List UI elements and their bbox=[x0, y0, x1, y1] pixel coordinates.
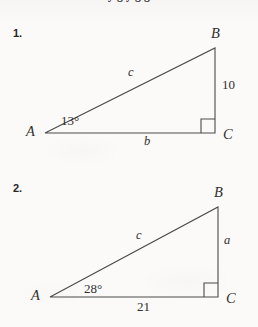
triangle-1-hypotenuse-label: c bbox=[128, 65, 134, 80]
triangle-1-vertex-label-A: A bbox=[26, 123, 35, 140]
triangle-1-base-label: b bbox=[144, 134, 150, 149]
triangle-2-vertex-label-A: A bbox=[31, 287, 40, 304]
problem-2-number: 2. bbox=[13, 182, 22, 194]
triangle-1-vertex-label-C: C bbox=[223, 126, 233, 143]
triangle-2-angle-label: 28° bbox=[84, 281, 102, 297]
triangle-2-hypotenuse-label: c bbox=[136, 228, 142, 243]
triangle-2-outline bbox=[50, 207, 218, 297]
triangle-1-angle-label: 13° bbox=[61, 113, 79, 129]
triangle-2-right-angle-marker bbox=[204, 283, 218, 297]
triangle-2-vertex-label-B: B bbox=[214, 184, 223, 201]
triangle-1-vertical-side-label: 10 bbox=[222, 77, 235, 93]
triangle-1-vertex-label-B: B bbox=[211, 25, 220, 42]
triangle-2-vertex-label-C: C bbox=[226, 290, 236, 307]
triangle-2-vertical-side-label: a bbox=[224, 233, 230, 248]
worksheet-page: y g y g g 1. A B C 13° c b 10 2. A B C 2… bbox=[0, 0, 258, 327]
triangle-1-right-angle-marker bbox=[201, 119, 215, 133]
triangle-2-base-label: 21 bbox=[137, 299, 150, 315]
